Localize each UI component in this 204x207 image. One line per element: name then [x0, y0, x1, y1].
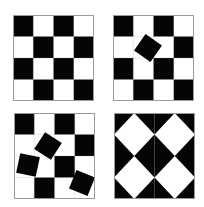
panel-checkerboard-three-rotated [14, 113, 95, 199]
checkerboard-scattered-graphic [14, 113, 95, 199]
triangle-pattern-graphic [114, 113, 195, 199]
checkerboard-graphic [13, 15, 94, 101]
panel-checkerboard-plain [13, 15, 94, 101]
checkerboard-rotated-graphic [113, 15, 194, 101]
panel-checkerboard-one-rotated [113, 15, 194, 101]
panel-triangle-pinwheel [114, 113, 195, 199]
